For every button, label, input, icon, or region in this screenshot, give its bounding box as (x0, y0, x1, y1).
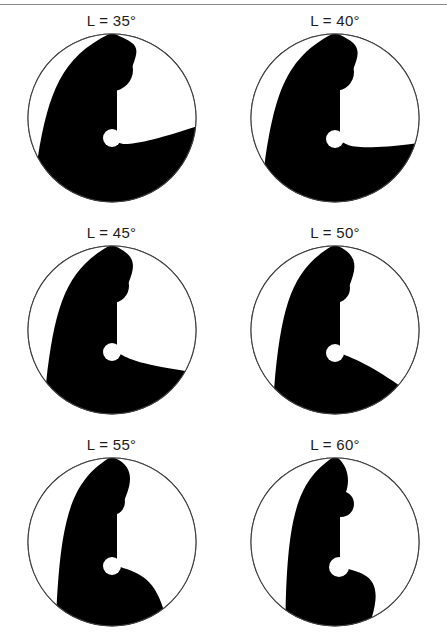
dark-stem (330, 288, 340, 353)
yin-body-group (251, 34, 419, 202)
panel-L-35: L = 35° (0, 8, 223, 220)
yin-body-group (251, 246, 419, 414)
yinyang-svg (247, 242, 423, 418)
panel-L-60: L = 60° (223, 432, 447, 634)
panel-label: L = 55° (0, 436, 223, 453)
panel-L-50: L = 50° (223, 220, 447, 432)
yinyang-svg (247, 30, 423, 206)
light-eye (103, 129, 121, 147)
panel-L-40: L = 40° (223, 8, 447, 220)
panel-L-45: L = 45° (0, 220, 223, 432)
light-eye (329, 557, 349, 577)
yin-body-group (27, 246, 195, 414)
light-eye (326, 344, 344, 362)
yin-body-group (251, 458, 419, 626)
yinyang-svg (247, 454, 423, 630)
dark-stem (107, 502, 117, 566)
horizontal-rule (0, 4, 447, 5)
dark-stem (107, 286, 117, 352)
panel-label: L = 35° (0, 12, 223, 29)
panel-label: L = 40° (223, 12, 447, 29)
panel-label: L = 50° (223, 224, 447, 241)
dark-stem (107, 70, 117, 138)
light-eye (103, 343, 121, 361)
yinyang-svg (24, 242, 200, 418)
yinyang-svg (24, 30, 200, 206)
panel-grid: L = 35°L = 40°L = 45°L = 50°L = 55°L = 6… (0, 8, 447, 634)
panel-label: L = 45° (0, 224, 223, 241)
yinyang-svg (24, 454, 200, 630)
yin-body-group (27, 34, 195, 202)
panel-label: L = 60° (223, 436, 447, 453)
yin-body-group (27, 458, 195, 626)
dark-stem (330, 72, 340, 139)
light-eye (326, 130, 344, 148)
light-eye (103, 557, 121, 575)
panel-L-55: L = 55° (0, 432, 223, 634)
dark-eye (328, 491, 354, 517)
figure-root: L = 35°L = 40°L = 45°L = 50°L = 55°L = 6… (0, 0, 447, 634)
